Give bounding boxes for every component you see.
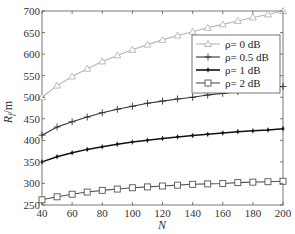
plus-marker-icon [144, 100, 151, 107]
dot-plus-marker-icon [282, 126, 285, 131]
plus-marker-icon [54, 123, 61, 130]
x-tick-label: 140 [184, 207, 201, 219]
x-axis-title: N [157, 218, 167, 232]
dot-plus-marker-icon [251, 128, 254, 133]
plus-marker-icon [129, 103, 136, 110]
series-line [42, 129, 283, 162]
y-tick-label: 650 [24, 27, 41, 39]
dot-plus-marker-icon [267, 127, 270, 132]
series-2 [41, 126, 285, 164]
triangle-marker-icon [84, 65, 91, 71]
series-line [42, 86, 283, 135]
x-tick-label: 200 [275, 207, 292, 219]
square-marker-icon [205, 80, 211, 86]
line-chart: 406080100120140160180200 250300350400450… [0, 0, 295, 234]
plus-marker-icon [99, 109, 106, 116]
square-marker-icon [69, 191, 75, 197]
legend-label: ρ= 1 dB [225, 64, 261, 76]
dot-plus-marker-icon [101, 144, 104, 149]
square-marker-icon [265, 179, 271, 185]
square-marker-icon [250, 179, 256, 185]
plus-marker-icon [174, 95, 181, 102]
series-3 [39, 178, 286, 203]
dot-plus-marker-icon [146, 138, 149, 143]
y-tick-label: 500 [24, 91, 41, 103]
triangle-marker-icon [54, 82, 61, 88]
square-marker-icon [160, 183, 166, 189]
x-tick-label: 60 [67, 207, 79, 219]
dot-plus-marker-icon [236, 129, 239, 134]
x-tick-label: 180 [245, 207, 262, 219]
x-tick-label: 160 [215, 207, 232, 219]
plus-marker-icon [280, 83, 287, 90]
plus-marker-icon [189, 94, 196, 101]
y-tick-label: 550 [24, 70, 41, 82]
y-tick-label: 700 [24, 5, 41, 17]
y-tick-label: 250 [24, 199, 41, 211]
y-axis-title-unit: /m [1, 100, 15, 113]
square-marker-icon [235, 180, 241, 186]
square-marker-icon [220, 180, 226, 186]
square-marker-icon [175, 182, 181, 188]
square-marker-icon [99, 187, 105, 193]
dot-plus-marker-icon [206, 132, 209, 137]
y-tick-label: 300 [24, 177, 41, 189]
triangle-marker-icon [69, 73, 76, 79]
y-tick-label: 400 [24, 134, 41, 146]
dot-plus-marker-icon [131, 140, 134, 145]
y-tick-label: 450 [24, 113, 41, 125]
legend-label: ρ= 0 dB [225, 38, 261, 50]
dot-plus-marker-icon [161, 136, 164, 141]
dot-plus-marker-icon [176, 134, 179, 139]
plus-marker-icon [114, 106, 121, 113]
x-tick-label: 80 [97, 207, 109, 219]
square-marker-icon [129, 185, 135, 191]
plus-marker-icon [159, 98, 166, 105]
square-marker-icon [144, 184, 150, 190]
y-tick-label: 600 [24, 48, 41, 60]
dot-plus-marker-icon [56, 154, 59, 159]
legend: ρ= 0 dBρ= 0.5 dBρ= 1 dBρ= 2 dB [192, 35, 280, 93]
x-tick-label: 100 [124, 207, 141, 219]
dot-plus-marker-icon [71, 150, 74, 155]
plus-marker-icon [69, 118, 76, 125]
square-marker-icon [190, 181, 196, 187]
square-marker-icon [84, 189, 90, 195]
dot-plus-marker-icon [191, 133, 194, 138]
plus-marker-icon [84, 114, 91, 121]
legend-label: ρ= 0.5 dB [225, 51, 269, 63]
square-marker-icon [114, 186, 120, 192]
square-marker-icon [205, 181, 211, 187]
y-tick-label: 350 [24, 156, 41, 168]
dot-plus-marker-icon [116, 142, 119, 147]
dot-plus-marker-icon [221, 131, 224, 136]
y-axis-title: Rf/m [1, 100, 16, 124]
dot-plus-marker-icon [86, 147, 89, 152]
square-marker-icon [54, 194, 60, 200]
legend-label: ρ= 2 dB [225, 77, 261, 89]
